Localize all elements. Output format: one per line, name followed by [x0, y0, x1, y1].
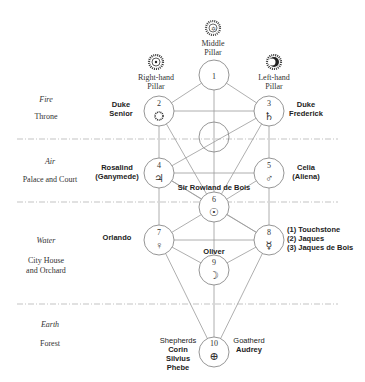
level-element-water: Water — [37, 236, 57, 245]
sephirah-8: 8 ☿ — [254, 225, 284, 255]
left-pillar-label-1: Left-hand — [258, 73, 290, 82]
sephirah-6: 6 ☉ — [199, 192, 229, 222]
svg-text:8: 8 — [267, 228, 271, 237]
earth-icon: ⊕ — [209, 350, 218, 362]
char-rosalind-1: Rosalind — [101, 163, 133, 172]
char-phebe: Phebe — [167, 363, 190, 372]
right-pillar-label-1: Right-hand — [138, 73, 174, 82]
sun-icon: ☉ — [209, 206, 219, 218]
svg-text:6: 6 — [212, 195, 216, 204]
level-place-city-2: and Orchard — [26, 266, 66, 275]
jupiter-icon: ♃ — [154, 172, 164, 184]
sephirah-7: 7 ♀ — [144, 225, 174, 255]
sephirah-4: 4 ♃ — [144, 158, 174, 188]
char-sir-rowland: Sir Rowland de Bois — [178, 183, 251, 192]
char-duke-frederick-1: Duke — [297, 100, 315, 109]
level-place-palace: Palace and Court — [23, 175, 78, 184]
left-pillar-label-2: Pillar — [265, 82, 283, 91]
sephirah-3: 3 ♄ — [254, 96, 284, 126]
middle-pillar-label-1: Middle — [201, 39, 225, 48]
mars-icon: ♂ — [265, 172, 273, 184]
tree-of-life-diagram: ✡ Middle Pillar Right-hand Pillar Left-h… — [0, 0, 365, 382]
level-place-city-1: City House — [28, 256, 65, 265]
char-duke-senior-2: Senior — [109, 109, 132, 118]
svg-text:3: 3 — [267, 99, 271, 108]
char-rosalind-2: (Ganymede) — [95, 172, 139, 181]
svg-text:7: 7 — [157, 228, 161, 237]
char-orlando: Orlando — [103, 233, 132, 242]
middle-pillar-label-2: Pillar — [204, 48, 222, 57]
svg-text:9: 9 — [212, 258, 216, 267]
sephirah-2: 2 — [144, 96, 174, 126]
char-jaques: (2) Jaques — [287, 234, 324, 243]
venus-icon: ♀ — [155, 239, 163, 251]
char-corin: Corin — [168, 345, 188, 354]
left-pillar-icon — [267, 55, 281, 69]
level-element-fire: Fire — [38, 95, 53, 104]
level-element-air: Air — [44, 157, 56, 166]
level-place-forest: Forest — [40, 339, 61, 348]
sephirah-1: 1 — [199, 60, 229, 90]
svg-text:✡: ✡ — [211, 26, 216, 32]
level-place-throne: Throne — [34, 112, 58, 121]
char-duke-frederick-2: Frederick — [289, 109, 324, 118]
svg-text:5: 5 — [267, 161, 271, 170]
char-audrey: Audrey — [236, 345, 263, 354]
svg-text:2: 2 — [157, 99, 161, 108]
char-celia-2: (Aliena) — [292, 172, 320, 181]
level-element-earth: Earth — [40, 320, 59, 329]
svg-text:1: 1 — [212, 72, 216, 81]
char-oliver: Oliver — [203, 247, 224, 256]
right-pillar-icon — [149, 55, 163, 69]
sephirah-9: 9 ☽ — [199, 255, 229, 285]
goatherd-heading: Goatherd — [233, 336, 264, 345]
saturn-icon: ♄ — [264, 110, 274, 122]
shepherds-heading: Shepherds — [160, 336, 197, 345]
svg-text:4: 4 — [157, 161, 161, 170]
char-silvius: Silvius — [166, 354, 190, 363]
char-celia-1: Celia — [297, 163, 316, 172]
sephirah-5: 5 ♂ — [254, 158, 284, 188]
middle-pillar-icon: ✡ — [206, 21, 220, 35]
moon-icon: ☽ — [209, 269, 219, 281]
char-jaques-de-bois: (3) Jaques de Bois — [287, 243, 353, 252]
sephirah-10: 10 ⊕ — [199, 337, 229, 367]
char-duke-senior-1: Duke — [112, 100, 130, 109]
right-pillar-label-2: Pillar — [147, 82, 165, 91]
mercury-icon: ☿ — [266, 239, 273, 251]
char-touchstone: (1) Touchstone — [287, 225, 340, 234]
svg-text:10: 10 — [210, 339, 218, 348]
